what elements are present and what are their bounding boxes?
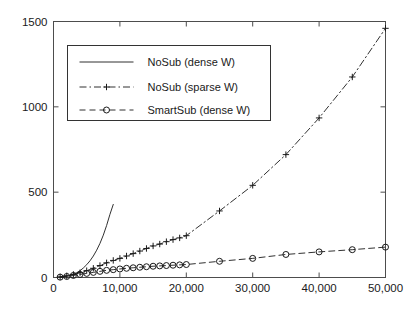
- x-tick-label: 10,000: [102, 282, 137, 294]
- legend-label-1[interactable]: NoSub (sparse W): [148, 81, 238, 93]
- x-tick-label: 30,000: [235, 282, 270, 294]
- x-tick-label: 20,000: [169, 282, 204, 294]
- plot-canvas: 010,00020,00030,00040,00050,000050010001…: [0, 0, 417, 319]
- x-tick-label: 0: [50, 282, 56, 294]
- legend-label-2[interactable]: SmartSub (dense W): [148, 104, 251, 116]
- series-line-0: [60, 204, 113, 277]
- x-tick-label: 50,000: [368, 282, 403, 294]
- legend-label-0[interactable]: NoSub (dense W): [148, 56, 235, 68]
- y-tick-label: 1000: [22, 101, 48, 113]
- y-tick-label: 1500: [22, 16, 48, 28]
- y-tick-label: 0: [41, 272, 47, 284]
- y-tick-label: 500: [28, 186, 47, 198]
- x-tick-label: 40,000: [302, 282, 337, 294]
- chart-figure: 010,00020,00030,00040,00050,000050010001…: [0, 0, 417, 319]
